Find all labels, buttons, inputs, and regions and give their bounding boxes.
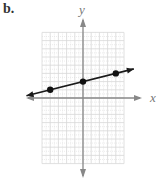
- y-axis-up-arrow-icon: [80, 18, 86, 27]
- data-point: [113, 70, 119, 76]
- y-axis-label: y: [77, 2, 85, 17]
- y-axis-down-arrow-icon: [80, 169, 86, 178]
- x-axis-label: x: [149, 90, 156, 105]
- data-point: [80, 78, 86, 84]
- axes: [26, 18, 142, 178]
- data-point: [47, 87, 53, 93]
- coordinate-plane: x y: [0, 0, 165, 186]
- plotted-line: [26, 68, 133, 97]
- x-axis-right-arrow-icon: [134, 95, 142, 101]
